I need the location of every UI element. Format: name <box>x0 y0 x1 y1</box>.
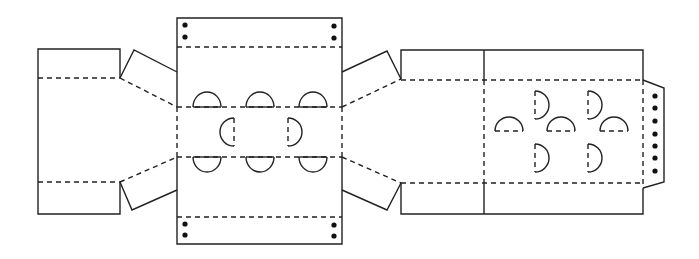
right-end-tab <box>643 80 664 188</box>
hole-dot <box>652 155 657 160</box>
dome-cutout <box>600 117 628 131</box>
hole-dot <box>182 221 187 226</box>
half-circle-cutout-left <box>220 118 234 146</box>
left-top-tab-fold <box>120 78 177 107</box>
hole-dot <box>652 93 657 98</box>
d-cutout <box>535 91 549 119</box>
half-circle-cutout-right <box>288 118 302 146</box>
dome-cutout <box>547 117 575 131</box>
dome-cutout <box>495 117 523 131</box>
right-top-tab-fold <box>342 79 401 107</box>
hole-dot <box>182 232 187 237</box>
hole-dot <box>331 23 336 28</box>
bowl-cutout <box>299 157 327 172</box>
left-panel-outline <box>38 49 120 214</box>
left-top-tab-outline <box>120 50 177 78</box>
bowl-cutout <box>193 157 221 172</box>
left-top-tab <box>120 50 177 107</box>
d-cutout <box>588 91 602 119</box>
hole-dot <box>652 131 657 136</box>
hole-dot <box>652 118 657 123</box>
right-panel-bottom-outline <box>401 183 643 214</box>
box-net-diagram <box>0 0 699 259</box>
right-bottom-tab-fold <box>342 157 401 183</box>
hole-dot <box>182 22 187 27</box>
hole-dot <box>652 105 657 110</box>
dome-cutout <box>299 92 327 107</box>
right-panel <box>401 50 643 214</box>
center-panel <box>177 18 342 244</box>
hole-dot <box>182 34 187 39</box>
d-cutout <box>535 144 549 172</box>
dome-cutout <box>193 92 221 107</box>
right-bottom-tab <box>342 157 401 210</box>
right-top-tab-outline <box>342 51 401 79</box>
d-cutout <box>588 144 602 172</box>
right-top-tab <box>342 51 401 107</box>
dome-cutout <box>246 92 274 107</box>
hole-dot <box>331 222 336 227</box>
right-bottom-tab-outline <box>342 183 401 210</box>
bowl-cutout <box>246 157 274 172</box>
hole-dot <box>652 143 657 148</box>
left-bottom-tab <box>120 157 177 210</box>
hole-dot <box>652 168 657 173</box>
left-bottom-tab-fold <box>120 157 177 182</box>
left-bottom-tab-outline <box>120 182 177 210</box>
hole-dot <box>331 233 336 238</box>
hole-dot <box>331 35 336 40</box>
left-side-panel <box>38 49 120 214</box>
right-panel-top-outline <box>401 50 643 80</box>
center-lower-outline <box>177 157 342 244</box>
